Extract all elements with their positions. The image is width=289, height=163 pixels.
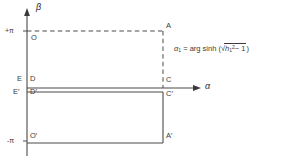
point-label-O-prime: O′ (30, 132, 37, 140)
point-label-C: C (166, 76, 171, 84)
point-label-D: D (30, 75, 35, 83)
alpha-axis-arrowhead (193, 85, 201, 91)
alpha-axis-label: α (205, 82, 210, 91)
point-label-A-prime: A′ (166, 132, 172, 140)
minus-pi-tick-label: -π (7, 137, 14, 144)
point-label-A: A (166, 22, 171, 30)
formula-radicand: h12− 1 (224, 43, 246, 53)
beta-axis-arrowhead (24, 8, 30, 16)
point-label-E: E (17, 75, 22, 83)
formula-alpha1: α1 = arg sinh (√h12− 1) (174, 44, 249, 53)
formula-equals: = (183, 44, 187, 53)
beta-axis-label: β (36, 3, 41, 12)
formula-radicand-rest: − 1 (235, 44, 246, 53)
point-label-O: O (31, 34, 37, 42)
point-label-E-prime: E′ (13, 88, 19, 96)
diagram-canvas (0, 0, 289, 163)
coordinate-diagram: β α +π -π O A E D C E′ D′ C′ O′ A′ α1 = … (0, 0, 289, 163)
point-label-C-prime: C′ (166, 90, 173, 98)
point-label-D-prime: D′ (30, 88, 37, 96)
plus-pi-tick-label: +π (5, 27, 14, 34)
formula-lhs-subscript: 1 (178, 47, 181, 53)
formula-close-paren: ) (246, 44, 249, 53)
formula-function: arg sinh (190, 44, 217, 53)
